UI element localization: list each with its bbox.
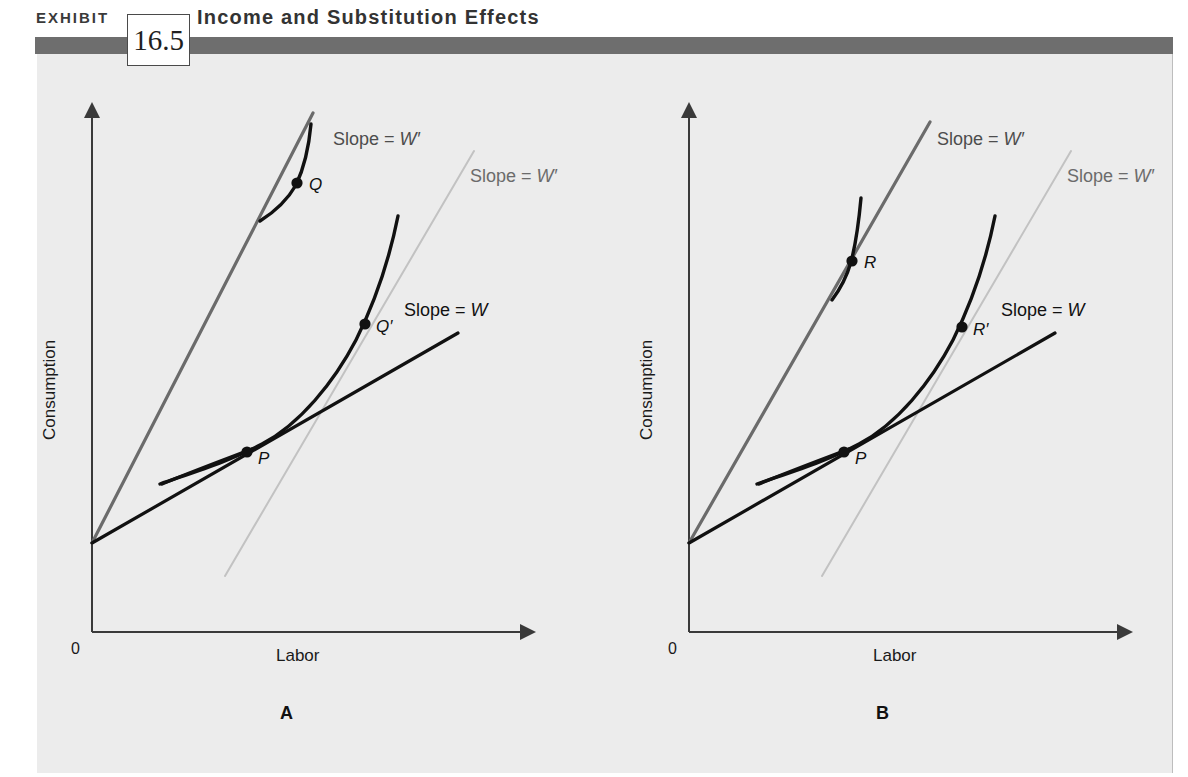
header-rule-bar <box>35 37 1173 54</box>
figure-panel <box>37 54 1173 773</box>
exhibit-number: 16.5 <box>128 15 189 65</box>
panel-a-point-p-label: P <box>258 449 269 469</box>
panel-b-point-r-prime-label: R′ <box>973 320 988 340</box>
panel-b-point-r-label: R <box>864 253 876 273</box>
panel-a-x-axis-label: Labor <box>276 646 319 666</box>
panel-b-y-axis-label: Consumption <box>637 340 657 440</box>
panel-b-origin-label: 0 <box>668 640 677 658</box>
panel-a-y-axis-label: Consumption <box>40 340 60 440</box>
panel-a-letter: A <box>280 703 293 724</box>
panel-a-point-q-prime-label: Q′ <box>376 317 392 337</box>
exhibit-number-box: 16.5 <box>127 14 190 66</box>
exhibit-figure: EXHIBIT 16.5 Income and Substitution Eff… <box>0 0 1188 777</box>
panel-b-x-axis-label: Labor <box>873 646 916 666</box>
panel-a-slope-w-label: Slope = W <box>404 300 488 321</box>
panel-a-origin-label: 0 <box>71 640 80 658</box>
panel-b-slope-w-label: Slope = W <box>1001 300 1085 321</box>
exhibit-label: EXHIBIT <box>36 9 109 26</box>
panel-b-slope-w-prime-shifted-label: Slope = W′ <box>1067 166 1154 187</box>
panel-b-letter: B <box>876 703 889 724</box>
panel-a-slope-w-prime-shifted-label: Slope = W′ <box>470 166 557 187</box>
page-title: Income and Substitution Effects <box>197 6 540 29</box>
panel-b-slope-w-prime-steep-label: Slope = W′ <box>937 129 1024 150</box>
panel-b-point-p-label: P <box>855 449 866 469</box>
panel-a-point-q-label: Q <box>309 175 322 195</box>
panel-a-slope-w-prime-steep-label: Slope = W′ <box>333 129 420 150</box>
